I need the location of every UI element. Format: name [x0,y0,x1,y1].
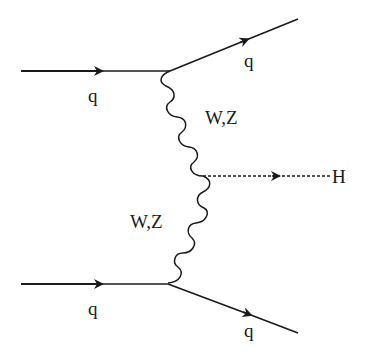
outgoing-bottom-quark-line [168,284,298,333]
diagram-lines [0,0,368,362]
label-higgs: H [332,167,346,186]
label-bottom-boson: W,Z [130,212,163,231]
top-boson-wavy-line [161,71,203,176]
label-incoming-top-quark: q [88,86,98,105]
label-top-boson: W,Z [205,108,238,127]
label-outgoing-bottom-quark: q [244,321,254,340]
label-outgoing-top-quark: q [244,51,254,70]
outgoing-top-quark-line [170,19,298,71]
feynman-diagram: q q W,Z H W,Z q q [0,0,368,362]
label-incoming-bottom-quark: q [88,299,98,318]
bottom-boson-wavy-line [168,176,210,283]
